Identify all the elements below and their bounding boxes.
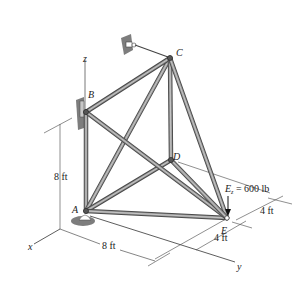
joint-label-a: A [71,204,79,215]
e-dim-label-2: 4 ft [260,205,274,216]
x-axis-label: x [27,241,33,252]
y-axis-label: y [236,261,242,272]
joint-label-d: D [172,151,181,162]
x-axis [34,229,60,244]
joint-a [83,208,88,213]
c-support-block [126,42,132,47]
base-line [60,229,100,244]
joint-b [83,109,88,114]
member-ae-highlight [86,211,227,218]
base-line-2 [120,250,155,261]
c-link [135,45,168,57]
b-support-block [80,101,84,117]
height-tick-top [44,118,72,133]
a-support-pin [79,215,91,220]
x-dim-label: 8 ft [102,240,116,251]
joint-label-c: C [176,47,183,58]
joint-c [167,55,172,60]
truss-members [86,58,227,218]
e-tick-2 [268,198,292,204]
z-axis-label: z [82,53,87,64]
load-symbol: E [224,183,231,194]
joint-label-b: B [88,89,94,100]
e-dim-label-1: 4 ft [214,232,228,243]
truss-diagram: z x y C B D A E Ez = 600 lb 8 ft 8 ft 4 … [0,0,303,287]
joint-e [225,216,229,220]
height-dim-label: 8 ft [54,171,68,182]
load-value: = 600 lb [233,183,269,194]
load-label: Ez = 600 lb [224,183,269,195]
x-dim-tick [148,253,170,266]
truss-svg: z x y C B D A E Ez = 600 lb 8 ft 8 ft 4 … [0,0,303,287]
